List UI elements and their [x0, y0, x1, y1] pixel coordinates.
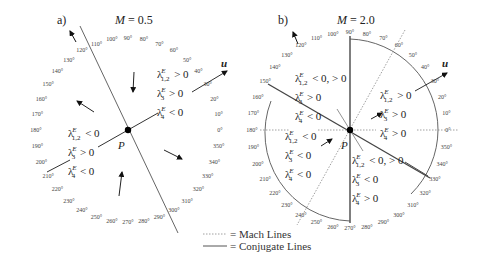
angle-label: 190°	[32, 143, 44, 149]
arrow-icon	[164, 150, 182, 159]
angle-label: 90°	[346, 29, 355, 35]
angle-label: 70°	[155, 41, 164, 47]
angle-label: 0°	[217, 127, 223, 133]
characteristics-diagram: a) M = 0.5 0°10°20°30°40°50°60°70°80°90°…	[0, 0, 477, 267]
angle-label: 280°	[361, 224, 373, 230]
angle-label: 200°	[252, 161, 264, 167]
eigenvalue-condition: λE4 < 0	[295, 109, 322, 125]
eigenvalue-condition: λE4 < 0	[285, 167, 312, 183]
flow-label-u: u	[221, 57, 227, 69]
angle-label: 40°	[194, 68, 203, 74]
angle-label: 90°	[124, 35, 133, 41]
flow-label-u: u	[442, 57, 448, 69]
panel-b: b) M = 2.0 0°10°20°30°40°50°60°70°80°90°…	[246, 13, 458, 231]
angle-label: 50°	[409, 52, 418, 58]
angle-label: 170°	[32, 111, 44, 117]
angle-label: 300°	[393, 212, 405, 218]
eigenvalue-regions-b: λE1,2 < 0, > 0λE3 > 0λE4 < 0λE1,2 > 0λE3…	[285, 71, 412, 207]
angle-label: 340°	[209, 159, 221, 165]
angle-label: 310°	[181, 198, 193, 204]
angle-label: 160°	[252, 94, 264, 100]
angle-label: 240°	[76, 207, 88, 213]
angle-label: 170°	[248, 110, 260, 116]
angle-label: 80°	[140, 36, 149, 42]
point-p	[125, 127, 131, 133]
eigenvalue-condition: λE3 > 0	[380, 107, 407, 123]
arrow-icon	[70, 31, 76, 42]
angle-label: 110°	[91, 41, 103, 47]
angle-label: 10°	[442, 110, 451, 116]
angle-label: 150°	[43, 81, 55, 87]
angle-label: 140°	[52, 68, 64, 74]
angle-label: 180°	[246, 127, 258, 133]
angle-label: 340°	[436, 161, 448, 167]
eigenvalue-condition: λE1,2 < 0	[285, 129, 317, 145]
arrow-icon	[119, 172, 122, 196]
eigenvalue-condition: λE4 < 0	[157, 105, 184, 121]
eigenvalue-condition: λE3 > 0	[295, 90, 322, 106]
conjugate-line	[405, 162, 428, 176]
angle-label: 190°	[248, 144, 260, 150]
angle-label: 230°	[63, 198, 75, 204]
eigenvalue-regions-a: λE1,2 > 0λE3 > 0λE4 < 0λE1,2 < 0λE3 > 0λ…	[68, 67, 189, 180]
angle-label: 350°	[441, 144, 453, 150]
eigenvalue-condition: λE1,2 > 0	[380, 88, 412, 104]
panel-b-title: M = 2.0	[336, 13, 375, 27]
point-label: P	[340, 139, 348, 151]
eigenvalue-condition: λE3 > 0	[157, 86, 184, 102]
angle-label: 220°	[269, 190, 281, 196]
angle-label: 320°	[193, 186, 205, 192]
point-p	[347, 127, 353, 133]
angle-label: 350°	[213, 143, 225, 149]
point-label: P	[117, 139, 125, 151]
flow-direction-arrow	[192, 71, 227, 92]
eigenvalue-condition: λE1,2 < 0, > 0	[352, 153, 404, 169]
angle-label: 80°	[363, 31, 372, 37]
angle-label: 70°	[379, 35, 388, 41]
angle-label: 270°	[344, 225, 356, 231]
angle-label: 100°	[106, 36, 118, 42]
angle-label: 250°	[91, 214, 103, 220]
angle-label: 310°	[407, 202, 419, 208]
eigenvalue-condition: λE4 < 0	[68, 164, 95, 180]
eigenvalue-condition: λE4 > 0	[352, 191, 379, 207]
angle-label: 110°	[311, 35, 323, 41]
arrow-icon	[133, 72, 134, 92]
angle-label: 290°	[378, 219, 390, 225]
angle-label: 330°	[429, 176, 441, 182]
panel-b-label: b)	[278, 13, 288, 27]
panel-a: a) M = 0.5 0°10°20°30°40°50°60°70°80°90°…	[30, 13, 227, 233]
panel-a-label: a)	[57, 13, 66, 27]
eigenvalue-condition: λE1,2 < 0, > 0	[295, 71, 347, 87]
angle-label: 330°	[202, 173, 214, 179]
eigenvalue-condition: λE3 < 0	[285, 148, 312, 164]
angle-label: 270°	[122, 219, 134, 225]
angle-label: 60°	[395, 42, 404, 48]
flow-line	[47, 160, 70, 172]
angle-label: 10°	[214, 111, 223, 117]
angle-label: 130°	[63, 57, 75, 63]
angle-label: 150°	[259, 78, 271, 84]
eigenvalue-condition: λE3 < 0	[352, 172, 379, 188]
angle-label: 290°	[154, 214, 166, 220]
angle-label: 250°	[311, 219, 323, 225]
legend: = Mach Lines = Conjugate Lines	[203, 228, 311, 252]
angle-label: 320°	[419, 190, 431, 196]
angle-label: 260°	[106, 218, 118, 224]
eigenvalue-condition: λE1,2 < 0	[68, 126, 100, 142]
angle-label: 120°	[76, 47, 88, 53]
angle-label: 140°	[269, 64, 281, 70]
angle-label: 260°	[327, 224, 339, 230]
eigenvalue-condition: λE1,2 > 0	[157, 67, 189, 83]
angle-label: 230°	[281, 202, 293, 208]
angle-label: 130°	[281, 52, 293, 58]
angle-label: 50°	[183, 57, 192, 63]
eigenvalue-condition: λE4 > 0	[380, 126, 407, 142]
angle-label: 180°	[30, 127, 42, 133]
angle-label: 100°	[327, 31, 339, 37]
angle-label: 220°	[52, 186, 64, 192]
arrow-icon	[321, 139, 332, 146]
eigenvalue-condition: λE3 > 0	[68, 145, 95, 161]
angle-label: 160°	[36, 96, 48, 102]
angle-label: 60°	[170, 47, 179, 53]
